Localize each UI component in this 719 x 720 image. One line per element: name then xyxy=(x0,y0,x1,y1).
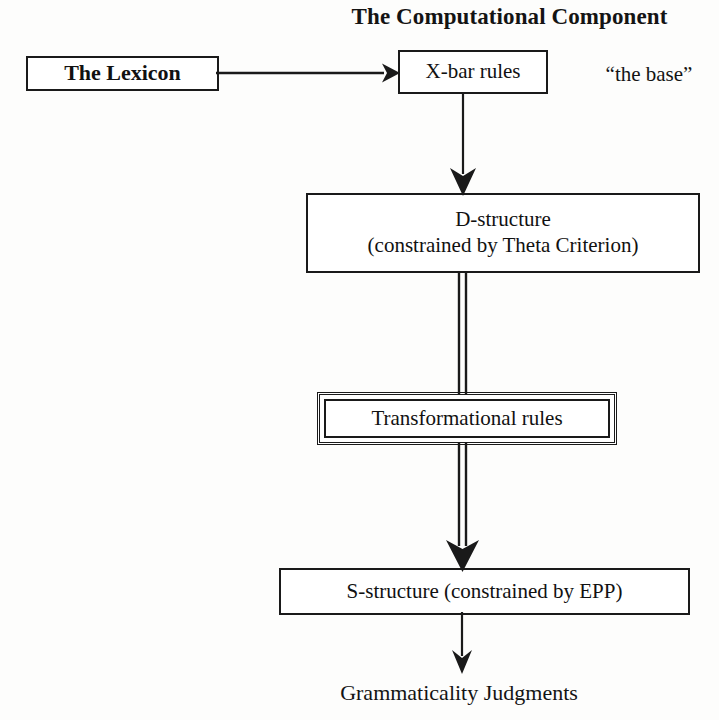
node-d-structure: D-structure (constrained by Theta Criter… xyxy=(306,193,700,273)
edge-lexicon-to-xbar-arrow-icon xyxy=(216,58,400,88)
edge-xbar-to-dstructure-arrow-icon xyxy=(444,92,482,196)
annotation-the-base: “the base” xyxy=(586,58,712,90)
node-the-lexicon-label: The Lexicon xyxy=(64,60,181,87)
node-grammaticality-judgments: Grammaticality Judgments xyxy=(259,676,659,710)
edge-sstructure-to-judgments-arrow-icon xyxy=(446,612,480,674)
node-d-structure-label-line1: D-structure xyxy=(455,207,551,233)
node-the-lexicon: The Lexicon xyxy=(26,56,219,91)
edge-dstructure-to-transformational-double-line-icon xyxy=(444,271,482,395)
node-transformational-rules-label: Transformational rules xyxy=(371,406,562,432)
node-s-structure: S-structure (constrained by EPP) xyxy=(279,568,690,615)
node-d-structure-label-line2: (constrained by Theta Criterion) xyxy=(368,233,639,259)
edge-transformational-to-sstructure-double-arrow-icon xyxy=(440,442,486,572)
diagram-canvas: The Computational Component The Lexicon … xyxy=(0,0,719,720)
node-x-bar-rules-label: X-bar rules xyxy=(425,59,520,85)
diagram-title: The Computational Component xyxy=(300,2,719,32)
node-s-structure-label: S-structure (constrained by EPP) xyxy=(347,579,623,605)
node-transformational-rules: Transformational rules xyxy=(317,392,617,445)
node-x-bar-rules: X-bar rules xyxy=(398,50,548,94)
